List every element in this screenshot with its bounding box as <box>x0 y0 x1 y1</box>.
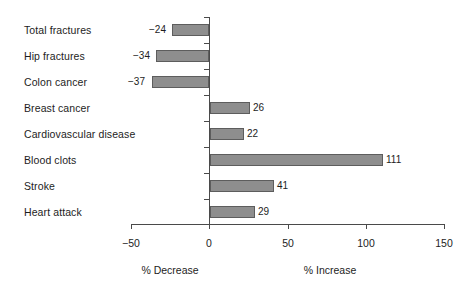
bar-value-label: −37 <box>128 77 145 87</box>
decrease-caption: % Decrease <box>141 265 198 276</box>
y-axis-tick <box>204 95 209 96</box>
category-label: Colon cancer <box>24 77 87 88</box>
x-axis-tick <box>209 224 210 229</box>
increase-caption: % Increase <box>304 265 357 276</box>
x-tick-label: 100 <box>357 238 375 249</box>
x-axis-tick <box>288 224 289 229</box>
y-axis-tick <box>204 173 209 174</box>
x-axis-tick <box>131 224 132 229</box>
y-axis-tick <box>204 69 209 70</box>
x-tick-label: 150 <box>435 238 453 249</box>
category-label: Hip fractures <box>24 51 85 62</box>
category-label: Cardiovascular disease <box>24 129 135 140</box>
bar-value-label: 26 <box>253 103 264 113</box>
y-axis-tick <box>204 17 209 18</box>
category-label: Total fractures <box>24 25 91 36</box>
y-axis-tick <box>204 43 209 44</box>
y-axis-tick <box>204 199 209 200</box>
chart-figure: Total fractures Hip fractures Colon canc… <box>0 0 469 286</box>
bar <box>210 154 384 166</box>
bar <box>156 50 209 62</box>
bar <box>210 206 255 218</box>
bar <box>152 76 210 88</box>
x-axis-tick <box>444 224 445 229</box>
bar <box>210 180 274 192</box>
x-axis-tick <box>366 224 367 229</box>
category-label: Breast cancer <box>24 103 90 114</box>
y-axis-tick <box>204 121 209 122</box>
bar-value-label: 29 <box>258 207 269 217</box>
x-tick-label: −50 <box>122 238 140 249</box>
bar <box>210 102 251 114</box>
y-axis-line <box>209 17 210 224</box>
bar-value-label: 41 <box>277 181 288 191</box>
category-label: Stroke <box>24 181 55 192</box>
bar-value-label: −24 <box>149 25 166 35</box>
x-tick-label: 50 <box>282 238 294 249</box>
bar <box>210 128 244 140</box>
bar-value-label: 22 <box>247 129 258 139</box>
bar <box>172 24 210 36</box>
plot-area: Total fractures Hip fractures Colon canc… <box>0 0 469 286</box>
category-label: Blood clots <box>24 155 76 166</box>
category-label: Heart attack <box>24 207 82 218</box>
x-tick-label: 0 <box>206 238 212 249</box>
bar-value-label: 111 <box>386 155 401 165</box>
y-axis-tick <box>204 147 209 148</box>
bar-value-label: −34 <box>133 51 150 61</box>
